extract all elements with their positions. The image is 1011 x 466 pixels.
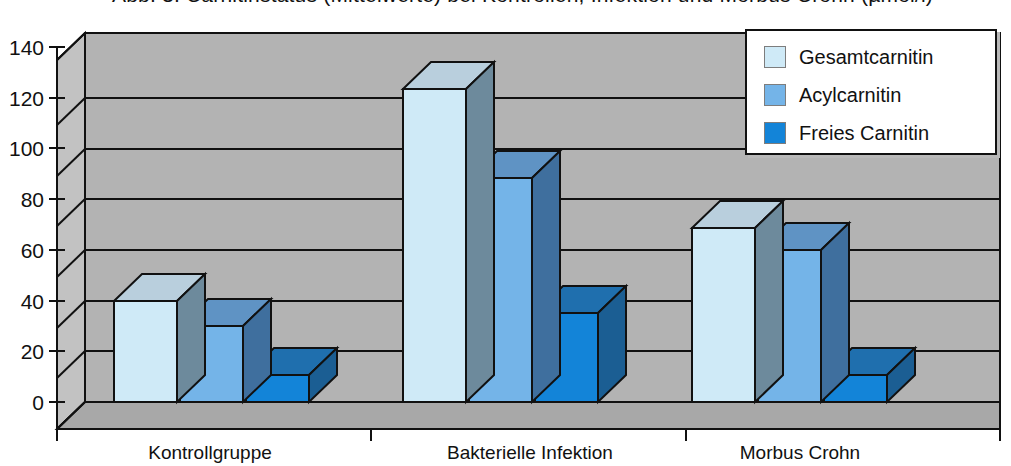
legend-label-gesamtcarnitin: Gesamtcarnitin <box>799 47 934 67</box>
legend-swatch-acylcarnitin <box>764 84 786 106</box>
x-category-label-kontrollgruppe: Kontrollgruppe <box>110 443 310 462</box>
x-axis <box>57 429 1000 441</box>
legend-label-acylcarnitin: Acylcarnitin <box>799 85 901 105</box>
y-tick-label-80: 80 <box>0 189 44 210</box>
chart-screenshot: Abb. 3: Carnitinstatus (Mittelwerte) bei… <box>0 0 1011 466</box>
y-tick-label-120: 120 <box>0 88 44 109</box>
y-tick-label-0: 0 <box>0 392 44 413</box>
bar-morbus-crohn-gesamtcarnitin <box>692 201 783 402</box>
y-tick-label-100: 100 <box>0 138 44 159</box>
chart-floor <box>57 402 1000 429</box>
legend-item-acylcarnitin: Acylcarnitin <box>764 82 901 108</box>
chart-left-wall <box>57 33 85 429</box>
legend-item-gesamtcarnitin: Gesamtcarnitin <box>764 44 934 70</box>
x-category-label-morbus-crohn: Morbus Crohn <box>700 443 900 462</box>
bar-kontrollgruppe-gesamtcarnitin <box>114 274 205 402</box>
y-tick-label-40: 40 <box>0 291 44 312</box>
x-category-label-bakterielle-infektion: Bakterielle Infektion <box>410 443 650 462</box>
chart-legend: Gesamtcarnitin Acylcarnitin Freies Carni… <box>745 29 997 155</box>
bar-chart-3d: 140 120 100 80 60 40 20 0 Kontrollgruppe… <box>0 0 1011 466</box>
legend-label-freies-carnitin: Freies Carnitin <box>799 123 929 143</box>
y-tick-label-20: 20 <box>0 341 44 362</box>
legend-swatch-gesamtcarnitin <box>764 46 786 68</box>
y-tick-label-140: 140 <box>0 37 44 58</box>
legend-item-freies-carnitin: Freies Carnitin <box>764 120 929 146</box>
bar-bakterielle-infektion-gesamtcarnitin <box>403 62 494 402</box>
y-tick-label-60: 60 <box>0 240 44 261</box>
legend-swatch-freies-carnitin <box>764 122 786 144</box>
